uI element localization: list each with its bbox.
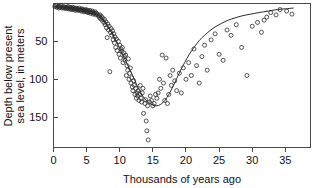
data-point <box>250 24 254 28</box>
axis-frame <box>54 4 311 148</box>
fit-curve <box>54 7 294 106</box>
data-point <box>143 102 147 106</box>
data-point <box>195 64 199 68</box>
data-point <box>131 89 135 93</box>
data-point <box>171 68 175 72</box>
x-tick-label: 15 <box>147 154 159 166</box>
data-point <box>168 74 172 78</box>
x-axis-label: Thousands of years ago <box>123 173 241 185</box>
x-tick-label: 20 <box>180 154 192 166</box>
x-tick-label: 35 <box>279 154 291 166</box>
x-tick-label: 5 <box>84 154 90 166</box>
data-point <box>179 91 183 95</box>
data-point <box>145 129 149 133</box>
data-point <box>234 23 238 27</box>
data-point <box>108 70 112 74</box>
data-point <box>118 56 122 60</box>
x-axis-ticks: 05101520253035 <box>50 148 291 166</box>
data-point <box>105 36 109 40</box>
y-axis-label-line1: Depth below present <box>2 26 14 127</box>
x-tick-label: 0 <box>50 154 56 166</box>
y-axis-label-line2: sea level, in meters <box>14 28 26 123</box>
data-point <box>146 104 150 108</box>
data-point <box>265 15 269 19</box>
data-point <box>256 20 260 24</box>
x-tick-label: 10 <box>114 154 126 166</box>
data-point <box>155 96 159 100</box>
data-point <box>144 119 148 123</box>
chart-svg: 05101520253035 50100150 Thousands of yea… <box>0 0 322 188</box>
plot-frame <box>54 4 311 148</box>
data-point <box>200 55 204 59</box>
data-point <box>285 9 289 13</box>
data-point <box>141 86 145 90</box>
data-point <box>205 68 209 72</box>
data-point <box>161 81 165 85</box>
data-point <box>159 86 163 90</box>
data-point <box>189 74 193 78</box>
data-point <box>187 61 191 65</box>
data-points <box>53 4 294 142</box>
data-point <box>175 89 179 93</box>
y-tick-label: 50 <box>35 35 47 47</box>
data-point <box>229 33 233 37</box>
data-point <box>126 57 130 61</box>
data-point <box>217 52 221 56</box>
data-point <box>165 102 169 106</box>
y-tick-label: 150 <box>29 111 47 123</box>
data-point <box>157 77 161 81</box>
data-point <box>184 77 188 81</box>
data-point <box>290 12 294 16</box>
data-point <box>209 38 213 42</box>
data-point <box>245 74 249 78</box>
data-point <box>146 138 150 142</box>
data-point <box>148 94 152 98</box>
x-tick-label: 25 <box>213 154 225 166</box>
data-point <box>203 43 207 47</box>
data-point <box>240 45 244 49</box>
data-point <box>274 13 278 17</box>
data-point <box>160 53 164 57</box>
data-point <box>259 30 263 34</box>
data-point <box>213 32 217 36</box>
data-point <box>225 28 229 32</box>
data-point <box>197 81 201 85</box>
y-tick-label: 100 <box>29 73 47 85</box>
data-point <box>142 111 146 115</box>
sea-level-scatter-chart: 05101520253035 50100150 Thousands of yea… <box>0 0 322 188</box>
data-point <box>164 56 168 60</box>
data-point <box>221 58 225 62</box>
x-tick-label: 30 <box>246 154 258 166</box>
